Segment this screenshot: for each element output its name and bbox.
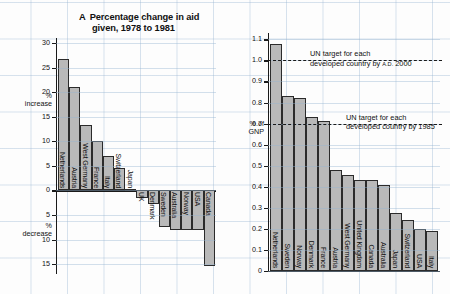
chart-b-tick: [264, 271, 268, 272]
chart-b-bar-label: United Kingdom: [356, 220, 363, 268]
chart-a-tick: [52, 117, 56, 118]
chart-b-tick-label: 0.6: [252, 141, 262, 148]
chart-b-tick-label: 0.7: [252, 120, 262, 127]
chart-canvas: APercentage change in aid given, 1978 to…: [0, 0, 450, 294]
chart-b-gridline: [268, 229, 440, 230]
chart-a-tick: [52, 166, 56, 167]
chart-a-tick: [52, 215, 56, 216]
chart-b-bar-label: Italy: [428, 256, 435, 268]
chart-a-tick-label: 10: [42, 236, 50, 243]
chart-a-bar-label: Switzerland: [115, 154, 122, 189]
chart-a-gridline: [56, 240, 216, 241]
chart-a-bar-label: Canada: [205, 192, 212, 216]
chart-a-tick: [52, 190, 56, 191]
chart-b-tick: [264, 208, 268, 209]
chart-b-tick-label: 0.5: [252, 162, 262, 169]
chart-b-gridline: [268, 187, 440, 188]
chart-b-gridline: [268, 208, 440, 209]
chart-b-tick-label: 1.1: [252, 36, 262, 43]
chart-a-gridline: [56, 264, 216, 265]
chart-b-un-target-note: UN target for eachdeveloped country by 1…: [346, 113, 435, 132]
chart-b-bar-label: West Germany: [344, 223, 351, 268]
chart-a-bar-label: USA: [194, 192, 201, 206]
chart-a-bar-label: Netherlands: [59, 152, 66, 188]
chart-a-gridline: [56, 117, 216, 118]
chart-a-tick: [52, 141, 56, 142]
chart-b-tick-label: 0.2: [252, 225, 262, 232]
chart-b-gridline: [268, 81, 440, 82]
chart-a-gridline: [56, 190, 216, 191]
chart-b-tick-label: 0: [258, 267, 262, 274]
chart-b-tick: [264, 39, 268, 40]
chart-b-tick-label: 0.8: [252, 99, 262, 106]
chart-b-un-target-note-line1: UN target for each: [310, 49, 412, 59]
chart-a-gridline: [56, 215, 216, 216]
chart-b-tick-label: 0.3: [252, 204, 262, 211]
chart-a-title: APercentage change in aid given, 1978 to…: [79, 12, 229, 35]
chart-b-gridline: [268, 250, 440, 251]
chart-a-ylabel-increase: increase: [25, 99, 52, 108]
chart-b-gridline: [268, 103, 440, 104]
chart-b-tick: [264, 81, 268, 82]
chart-b-gridline: [268, 39, 440, 40]
chart-b-bar-label: Denmark: [308, 241, 315, 268]
chart-a-bar-label: Norway: [183, 192, 190, 215]
chart-a-title-line2: given, 1978 to 1981: [92, 23, 175, 33]
chart-a-gridline: [56, 68, 216, 69]
chart-b-ylabel-line2: GNP: [248, 127, 264, 136]
chart-a-gridline: [56, 92, 216, 93]
chart-a-title-line1: Percentage change in aid: [90, 12, 200, 22]
chart-a-tick-label: 25: [42, 64, 50, 71]
chart-a-tick-label: 15: [42, 261, 50, 268]
chart-a-bar-label: Sweden: [160, 192, 167, 216]
chart-a-tick-label: 5: [46, 211, 50, 218]
chart-b-bar-label: Australia: [380, 242, 387, 268]
chart-b-tick-label: 0.9: [252, 78, 262, 85]
chart-a-bar-label: Japan: [127, 170, 134, 188]
chart-b-bar-label: Japan: [392, 250, 399, 268]
chart-a-tick-label: 20: [42, 88, 50, 95]
chart-a-tick: [52, 92, 56, 93]
chart-b-un-target-note-line2: developed country by A.D. 2000: [310, 59, 412, 70]
chart-a-bar-label: France: [93, 168, 100, 189]
chart-a-tick-label: 15: [42, 113, 50, 120]
chart-a-bar-label: Austria: [71, 168, 78, 189]
chart-b-gridline: [268, 271, 440, 272]
chart-b-tick: [264, 187, 268, 188]
chart-b-tick-label: 0.1: [252, 246, 262, 253]
chart-a-plot-area: NetherlandsAustriaWest GermanyFranceItal…: [56, 38, 216, 274]
chart-a-bar-label: UK: [138, 192, 145, 201]
chart-b-bar-label: Norway: [296, 245, 303, 268]
chart-a-tick-label: 30: [42, 39, 50, 46]
chart-b-tick: [264, 166, 268, 167]
chart-a-tick: [52, 264, 56, 265]
chart-b-tick: [264, 145, 268, 146]
chart-a-title-letter: A: [79, 12, 86, 22]
chart-b-tick-label: 0.4: [252, 183, 262, 190]
chart-a-gridline: [56, 166, 216, 167]
chart-b-plot-area: NetherlandsSwedenNorwayDenmarkFranceAust…: [268, 33, 440, 271]
chart-b-gridline: [268, 166, 440, 167]
chart-b-un-target-note: UN target for eachdeveloped country by A…: [310, 49, 412, 69]
chart-b-un-target-note-line2: developed country by 1985: [346, 122, 435, 132]
chart-b-tick: [264, 229, 268, 230]
chart-a-gridline: [56, 141, 216, 142]
chart-b-bar-label: Sweden: [284, 244, 291, 268]
chart-panel-a: APercentage change in aid given, 1978 to…: [0, 0, 222, 294]
chart-a-tick: [52, 240, 56, 241]
chart-b-un-target-note-line1: UN target for each: [346, 113, 435, 123]
chart-a-bar-label: Italy: [104, 176, 111, 188]
chart-b-un-target-note-ad: A.D.: [382, 61, 393, 67]
chart-b-gridline: [268, 145, 440, 146]
chart-b-bar-label: Canada: [368, 244, 375, 268]
chart-a-tick: [52, 43, 56, 44]
chart-b-tick: [264, 250, 268, 251]
chart-b-tick-label: 1.0: [252, 57, 262, 64]
chart-a-tick-label: 5: [46, 162, 50, 169]
chart-a-tick: [52, 68, 56, 69]
chart-a-tick-label: 10: [42, 138, 50, 145]
chart-a-gridline: [56, 43, 216, 44]
chart-b-bar-label: USA: [416, 254, 423, 268]
chart-a-tick-label: 0: [46, 187, 50, 194]
chart-b-tick: [264, 103, 268, 104]
